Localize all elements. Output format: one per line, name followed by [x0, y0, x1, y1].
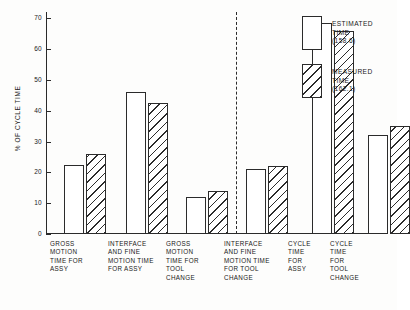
bar	[368, 135, 388, 234]
legend-item: ESTIMATED TIME (158.6)	[302, 16, 373, 50]
y-axis-tick-label: 60	[20, 45, 42, 52]
y-axis-tick-label: 20	[20, 168, 42, 175]
legend-label: ESTIMATED TIME (158.6)	[332, 20, 373, 46]
bar	[268, 166, 288, 234]
bar	[208, 191, 228, 234]
y-axis-tick-label: 10	[20, 199, 42, 206]
bar	[186, 197, 206, 234]
bar	[148, 103, 168, 234]
bar	[64, 165, 84, 234]
bar	[390, 126, 410, 234]
x-axis-category-label: INTERFACE AND FINE MOTION TIME FOR ASSY	[108, 240, 166, 274]
legend-swatch-hatched-icon	[302, 64, 322, 98]
x-axis-category-label: CYCLE TIME FOR ASSY	[288, 240, 328, 274]
x-axis-category-label: INTERFACE AND FINE MOTION TIME FOR TOOL …	[224, 240, 284, 282]
y-axis-tick-label: 40	[20, 107, 42, 114]
bar	[246, 169, 266, 234]
section-divider-dashed-line	[236, 12, 237, 234]
x-axis-category-label: CYCLE TIME FOR TOOL CHANGE	[330, 240, 376, 282]
bar	[126, 92, 146, 234]
legend-label: MEASURED TIME (162.1)	[332, 68, 373, 94]
bar	[312, 23, 332, 234]
legend-swatch-open-icon	[302, 16, 322, 50]
x-axis-category-label: GROSS MOTION TIME FOR ASSY	[50, 240, 106, 274]
x-axis-category-label: GROSS MOTION TIME FOR TOOL CHANGE	[166, 240, 224, 282]
y-axis-tick	[46, 234, 51, 235]
y-axis-tick-label: 50	[20, 76, 42, 83]
y-axis-tick-label: 30	[20, 138, 42, 145]
legend-item: MEASURED TIME (162.1)	[302, 64, 373, 98]
y-axis-tick-label: 0	[20, 230, 42, 237]
y-axis-tick-label: 70	[20, 14, 42, 21]
bar	[334, 31, 354, 235]
bar	[86, 154, 106, 234]
